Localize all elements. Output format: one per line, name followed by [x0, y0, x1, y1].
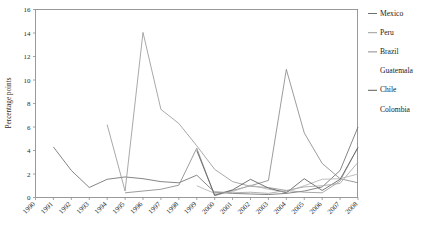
x-tick-label: 1997	[147, 200, 163, 216]
x-tick-label: 1998	[165, 200, 181, 216]
legend-label-mexico: Mexico	[380, 9, 403, 18]
x-tick-label: 2001	[218, 200, 234, 216]
legend-label-guatemala: Guatemala	[380, 66, 414, 75]
legend-label-peru: Peru	[380, 28, 394, 37]
chart-legend: MexicoPeruBrazilGuatemalaChileColombia	[368, 9, 414, 114]
series-group	[53, 32, 358, 195]
series-line-peru	[107, 32, 358, 192]
x-tick-label: 2002	[236, 200, 252, 216]
x-tick-label: 1992	[57, 200, 73, 216]
legend-label-colombia: Colombia	[380, 105, 411, 114]
y-tick-label: 8	[27, 100, 31, 108]
x-tick-label: 2004	[272, 200, 288, 216]
x-tick-label: 2000	[201, 200, 217, 216]
y-tick-label: 10	[24, 77, 32, 85]
series-line-brazil	[125, 69, 358, 195]
y-tick-label: 4	[27, 147, 31, 155]
x-tick-label: 2008	[344, 200, 360, 216]
x-tick-label: 1990	[21, 200, 37, 216]
y-tick-label: 16	[24, 6, 32, 14]
x-tick-label: 1996	[129, 200, 145, 216]
y-tick-label-group: 0246810121416	[24, 6, 32, 202]
y-tick-label: 6	[27, 124, 31, 132]
x-tick-label-group: 1990199119921993199419951996199719981999…	[21, 200, 359, 216]
y-axis-label: Percentage points	[5, 77, 13, 128]
y-tick-label: 12	[24, 53, 32, 61]
x-tick-label: 1991	[39, 200, 55, 216]
series-line-colombia	[215, 162, 358, 193]
chart-page: 0246810121416 19901991199219931994199519…	[0, 0, 425, 234]
line-chart: 0246810121416 19901991199219931994199519…	[0, 0, 425, 234]
x-tick-label: 1995	[111, 200, 127, 216]
x-tick-label: 2005	[290, 200, 306, 216]
series-line-chile	[197, 148, 358, 196]
x-tick-label: 1999	[183, 200, 199, 216]
legend-label-brazil: Brazil	[380, 47, 399, 56]
y-tick-label: 2	[27, 171, 31, 179]
x-tick-label: 1994	[93, 200, 109, 216]
x-tick-label: 2006	[308, 200, 324, 216]
legend-label-chile: Chile	[380, 85, 397, 94]
y-tick-label: 14	[24, 30, 32, 38]
x-tick-label: 2003	[254, 200, 270, 216]
x-tick-label: 2007	[326, 200, 342, 216]
chart-axes	[36, 9, 359, 198]
x-tick-label: 1993	[75, 200, 91, 216]
